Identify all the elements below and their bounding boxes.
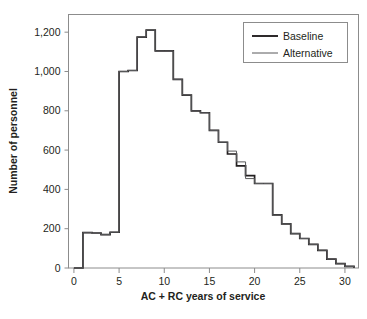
chart-legend: BaselineAlternative [244,23,348,63]
x-tick-label: 10 [158,275,170,287]
chart-figure: 02004006008001,0001,200 051015202530 AC … [0,0,367,319]
y-axis-title: Number of personnel [7,88,19,194]
y-tick-label: 800 [43,104,61,116]
y-tick-label: 1,000 [34,65,60,77]
x-tick-label: 5 [116,275,122,287]
x-tick-label: 30 [339,275,351,287]
y-tick-label: 0 [55,262,61,274]
x-tick-label: 0 [71,275,77,287]
y-tick-label: 1,200 [34,26,60,38]
x-axis-title: AC + RC years of service [141,290,266,302]
y-tick-label: 200 [43,222,61,234]
x-tick-label: 15 [204,275,216,287]
legend-label-baseline: Baseline [283,30,323,42]
y-tick-label: 400 [43,183,61,195]
y-tick-label: 600 [43,144,61,156]
legend-label-alternative: Alternative [283,47,333,59]
x-tick-label: 20 [249,275,261,287]
x-tick-label: 25 [294,275,306,287]
histogram-chart: 02004006008001,0001,200 051015202530 AC … [0,0,367,319]
